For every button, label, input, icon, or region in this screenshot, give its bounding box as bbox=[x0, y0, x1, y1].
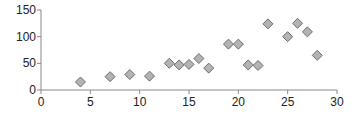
data-points bbox=[75, 18, 322, 87]
x-tick-label: 30 bbox=[330, 95, 344, 109]
x-tick-label: 15 bbox=[182, 95, 196, 109]
diamond-marker bbox=[204, 63, 214, 73]
diamond-marker bbox=[312, 50, 322, 60]
x-tick-label: 10 bbox=[133, 95, 147, 109]
diamond-marker bbox=[194, 54, 204, 64]
diamond-marker bbox=[125, 70, 135, 80]
y-tick-label: 50 bbox=[23, 56, 37, 70]
diamond-marker bbox=[233, 39, 243, 49]
y-tick-label: 150 bbox=[16, 3, 36, 17]
diamond-marker bbox=[302, 27, 312, 37]
diamond-marker bbox=[243, 60, 253, 70]
y-tick-label: 0 bbox=[29, 83, 36, 97]
y-axis: 050100150 bbox=[16, 3, 41, 97]
diamond-marker bbox=[75, 77, 85, 87]
diamond-marker bbox=[263, 19, 273, 29]
scatter-chart: 050100150 051015202530 bbox=[0, 0, 360, 120]
x-tick-label: 0 bbox=[38, 95, 45, 109]
diamond-marker bbox=[184, 59, 194, 69]
x-axis: 051015202530 bbox=[38, 90, 344, 109]
diamond-marker bbox=[145, 71, 155, 81]
diamond-marker bbox=[293, 18, 303, 28]
diamond-marker bbox=[105, 72, 115, 82]
diamond-marker bbox=[283, 32, 293, 42]
y-tick-label: 100 bbox=[16, 30, 36, 44]
x-tick-label: 25 bbox=[281, 95, 295, 109]
x-tick-label: 5 bbox=[87, 95, 94, 109]
diamond-marker bbox=[164, 58, 174, 68]
diamond-marker bbox=[174, 60, 184, 70]
diamond-marker bbox=[253, 60, 263, 70]
x-tick-label: 20 bbox=[232, 95, 246, 109]
diamond-marker bbox=[223, 39, 233, 49]
